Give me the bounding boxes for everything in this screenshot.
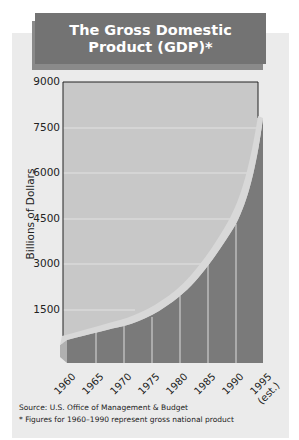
y-tick-3000: 3000 [32, 257, 60, 269]
y-tick-1500: 1500 [32, 303, 60, 315]
y-tick-4500: 4500 [32, 212, 60, 224]
source-note: Source: U.S. Office of Management & Budg… [19, 403, 188, 412]
footnote: * Figures for 1960–1990 represent gross … [19, 415, 234, 424]
y-tick-7500: 7500 [32, 121, 60, 133]
y-tick-9000: 9000 [32, 75, 60, 87]
y-tick-6000: 6000 [32, 166, 60, 178]
y-axis-label: Billions of Dollars [24, 154, 36, 274]
